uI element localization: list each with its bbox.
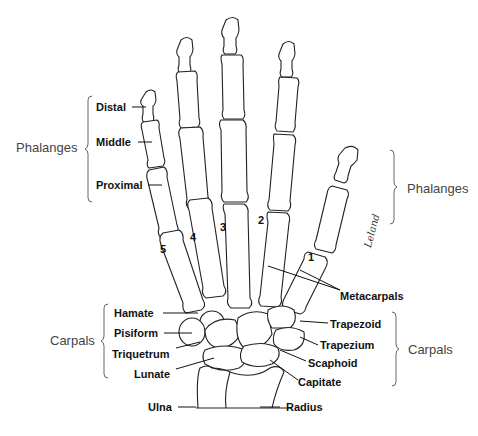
distal-label: Distal [96,101,126,113]
finger-1 [283,146,359,314]
finger-2 [259,42,299,308]
right-phalanges-bracket [390,150,397,224]
metacarpals-label: Metacarpals [340,290,404,302]
pisiform-label: Pisiform [114,327,158,339]
capitate-label: Capitate [298,376,341,388]
finger-number-1: 1 [308,251,314,263]
trapezium-label: Trapezium [320,339,374,351]
finger-number-4: 4 [190,231,196,243]
scaphoid-label: Scaphoid [308,357,358,369]
hand-bones-illustration [0,0,478,436]
left-phalanges-bracket [85,96,92,202]
proximal-label: Proximal [96,179,142,191]
triquetrum-label: Triquetrum [112,348,169,360]
trapezoid-label: Trapezoid [330,318,381,330]
finger-number-3: 3 [220,221,226,233]
finger-number-2: 2 [258,214,264,226]
forearm-bones [196,366,292,408]
left-carpals-group-label: Carpals [50,334,95,348]
carpal-bones [179,306,304,370]
finger-number-5: 5 [160,243,166,255]
finger-3 [220,18,252,309]
right-carpals-group-label: Carpals [408,343,453,357]
hamate-label: Hamate [114,307,154,319]
lunate-label: Lunate [134,368,170,380]
right-phalanges-group-label: Phalanges [407,182,468,196]
radius-label: Radius [286,401,323,413]
left-phalanges-group-label: Phalanges [16,141,77,155]
middle-label: Middle [96,136,131,148]
right-carpals-bracket [392,312,399,386]
ulna-label: Ulna [148,401,172,413]
left-carpals-bracket [101,304,108,378]
